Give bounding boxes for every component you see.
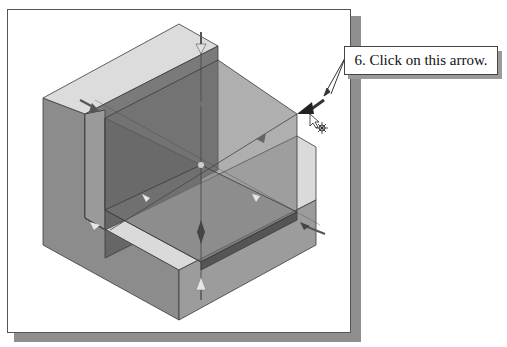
callout-step-text: 6. Click on this arrow. (354, 52, 487, 69)
plane-center-point (198, 162, 204, 168)
inner-edge-strip (85, 110, 105, 230)
resize-arrow-right-selected[interactable] (297, 100, 324, 114)
callout-leader-line (324, 58, 345, 96)
instruction-callout: 6. Click on this arrow. (344, 46, 498, 75)
mouse-cursor-icon (310, 114, 328, 134)
part-model (43, 24, 320, 320)
